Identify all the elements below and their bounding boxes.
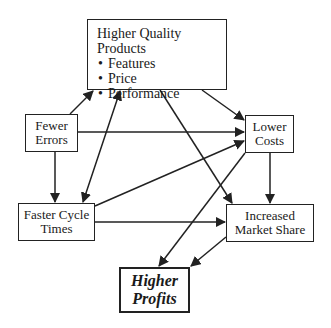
arrow-fct-hqp-bidirectional (83, 91, 120, 202)
bullet-item: Price (97, 71, 180, 86)
node-label-line: Market Share (235, 223, 305, 237)
bullet-item: Performance (97, 86, 180, 101)
node-increased-market-share: Increased Market Share (226, 204, 314, 242)
node-faster-cycle-times: Faster Cycle Times (18, 203, 95, 241)
node-label-line: Lower (253, 120, 287, 134)
node-lower-costs: Lower Costs (245, 115, 294, 153)
node-label-line: Increased (245, 209, 295, 223)
node-label-line: Profits (132, 290, 176, 308)
node-label-line: Fewer (35, 119, 68, 133)
node-higher-profits: Higher Profits (119, 267, 190, 313)
node-title: Higher Quality Products (97, 26, 226, 56)
node-fewer-errors: Fewer Errors (25, 114, 78, 152)
node-label-line: Faster Cycle (24, 208, 89, 222)
arrow-hqp-to-lc (202, 90, 244, 120)
bullet-list: Features Price Performance (97, 56, 180, 101)
node-label-line: Higher (131, 272, 178, 290)
arrow-ims-to-hp (191, 237, 226, 266)
node-label-line: Errors (35, 133, 68, 147)
node-label-line: Costs (255, 134, 284, 148)
arrow-fct-to-lc (95, 141, 244, 206)
node-label-line: Times (40, 222, 72, 236)
arrow-fe-to-hqp (70, 91, 93, 114)
arrow-hqp-to-ims (160, 90, 232, 203)
node-higher-quality-products: Higher Quality Products Features Price P… (87, 19, 227, 90)
bullet-item: Features (97, 56, 180, 71)
